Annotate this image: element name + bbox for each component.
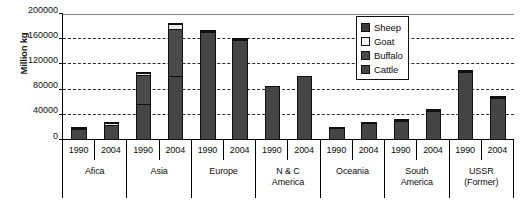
category-region-label: SouthAmerica <box>385 160 448 198</box>
category-region: 19902004Afica <box>63 140 127 198</box>
y-tick-label: 80000 <box>14 81 58 90</box>
bar-group <box>63 15 95 140</box>
bar[interactable] <box>458 70 473 140</box>
legend-swatch-icon <box>361 65 370 74</box>
category-year-row: 19902004 <box>450 140 513 160</box>
bar-group <box>95 15 127 140</box>
bar-group <box>160 15 192 140</box>
category-region-label-line: Europe <box>209 166 237 177</box>
category-region-label: USSR(Former) <box>450 160 513 198</box>
category-year-label: 1990 <box>385 140 417 160</box>
bar-segment-cattle <box>136 104 151 140</box>
bar[interactable] <box>104 122 119 140</box>
bar[interactable] <box>329 127 344 140</box>
category-year-row: 19902004 <box>385 140 448 160</box>
category-region: 19902004USSR(Former) <box>450 140 513 198</box>
bar[interactable] <box>200 30 215 140</box>
category-region: 19902004N & CAmerica <box>256 140 320 198</box>
bar-segment-cattle <box>490 98 505 140</box>
category-region-label-line: South <box>401 166 433 177</box>
y-tick-label: 40000 <box>14 106 58 115</box>
y-axis-tick-labels: 20000016000012000080000400000 <box>14 10 58 140</box>
category-year-label: 1990 <box>321 140 353 160</box>
category-year-label: 1990 <box>450 140 482 160</box>
bar-group <box>256 15 288 140</box>
category-year-label: 2004 <box>95 140 126 160</box>
bar-segment-cattle <box>361 123 376 140</box>
legend-item-goat[interactable]: Goat <box>361 34 403 48</box>
bar-segment-cattle <box>232 40 247 140</box>
category-region: 19902004SouthAmerica <box>385 140 449 198</box>
category-region-label: Oceania <box>321 160 384 198</box>
category-year-row: 19902004 <box>192 140 255 160</box>
legend-label: Cattle <box>374 64 398 75</box>
bar[interactable] <box>71 127 86 140</box>
bar-group <box>192 15 224 140</box>
milk-production-bar-chart: Million kg 20000016000012000080000400000… <box>0 0 528 212</box>
bar-segment-cattle <box>394 121 409 140</box>
bar-segment-cattle <box>71 129 86 140</box>
category-region-label-line: USSR <box>464 166 498 177</box>
legend-swatch-icon <box>361 37 370 46</box>
bar[interactable] <box>361 122 376 140</box>
category-year-row: 19902004 <box>63 140 126 160</box>
bar[interactable] <box>297 76 312 140</box>
bar[interactable] <box>168 23 183 140</box>
bar[interactable] <box>136 72 151 140</box>
category-year-label: 2004 <box>417 140 448 160</box>
bar-group <box>450 15 482 140</box>
category-year-row: 19902004 <box>256 140 319 160</box>
category-region-label: N & CAmerica <box>256 160 319 198</box>
bar-group <box>127 15 159 140</box>
bar-group <box>321 15 353 140</box>
category-region-label-line: (Former) <box>464 177 498 188</box>
bar[interactable] <box>426 109 441 141</box>
y-tick-label: 120000 <box>14 56 58 65</box>
bar-group <box>482 15 514 140</box>
bar-group <box>289 15 321 140</box>
bar[interactable] <box>490 96 505 140</box>
legend-label: Sheep <box>374 22 401 33</box>
y-tick-label: 0 <box>14 132 58 141</box>
category-region-label-line: Oceania <box>336 166 369 177</box>
category-year-label: 1990 <box>127 140 159 160</box>
legend-swatch-icon <box>361 51 370 60</box>
y-tick-label: 160000 <box>14 31 58 40</box>
bar[interactable] <box>265 86 280 140</box>
bar-segment-buffalo <box>168 29 183 75</box>
bar-segment-cattle <box>426 111 441 141</box>
legend-swatch-icon <box>361 23 370 32</box>
category-year-label: 2004 <box>482 140 513 160</box>
category-region-label-line: Afica <box>85 166 105 177</box>
bar-segment-cattle <box>265 86 280 140</box>
y-tick-mark <box>59 13 63 14</box>
category-region-label-line: America <box>401 177 433 188</box>
legend-label: Buffalo <box>374 50 403 61</box>
legend-label: Goat <box>374 36 394 47</box>
category-year-label: 1990 <box>63 140 95 160</box>
category-region-label-line: America <box>272 177 304 188</box>
bar-segment-cattle <box>104 125 119 140</box>
category-year-label: 2004 <box>288 140 319 160</box>
category-region-label: Afica <box>63 160 126 198</box>
legend-item-cattle[interactable]: Cattle <box>361 62 403 76</box>
category-year-row: 19902004 <box>127 140 190 160</box>
category-year-label: 1990 <box>256 140 288 160</box>
category-region: 19902004Europe <box>192 140 256 198</box>
bar-segment-cattle <box>458 72 473 140</box>
bar[interactable] <box>394 119 409 140</box>
category-year-row: 19902004 <box>321 140 384 160</box>
bar-segment-cattle <box>200 32 215 140</box>
category-year-label: 2004 <box>353 140 384 160</box>
category-year-label: 2004 <box>224 140 255 160</box>
bar-group <box>417 15 449 140</box>
category-year-label: 2004 <box>160 140 191 160</box>
bar[interactable] <box>232 38 247 140</box>
bar-segment-cattle <box>297 76 312 140</box>
category-year-label: 1990 <box>192 140 224 160</box>
bar-segment-cattle <box>329 128 344 140</box>
legend-item-sheep[interactable]: Sheep <box>361 20 403 34</box>
category-region: 19902004Asia <box>127 140 191 198</box>
chart-legend: SheepGoatBuffaloCattle <box>356 16 409 80</box>
legend-item-buffalo[interactable]: Buffalo <box>361 48 403 62</box>
